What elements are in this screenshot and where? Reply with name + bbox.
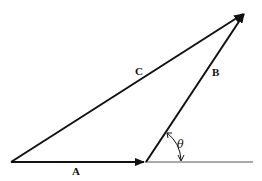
vector-b — [146, 14, 244, 162]
label-c: C — [135, 65, 143, 77]
vector-diagram: A B C θ — [0, 0, 262, 181]
label-b: B — [212, 66, 220, 78]
label-a: A — [72, 165, 80, 177]
vector-c — [11, 14, 243, 162]
label-theta: θ — [177, 138, 184, 151]
